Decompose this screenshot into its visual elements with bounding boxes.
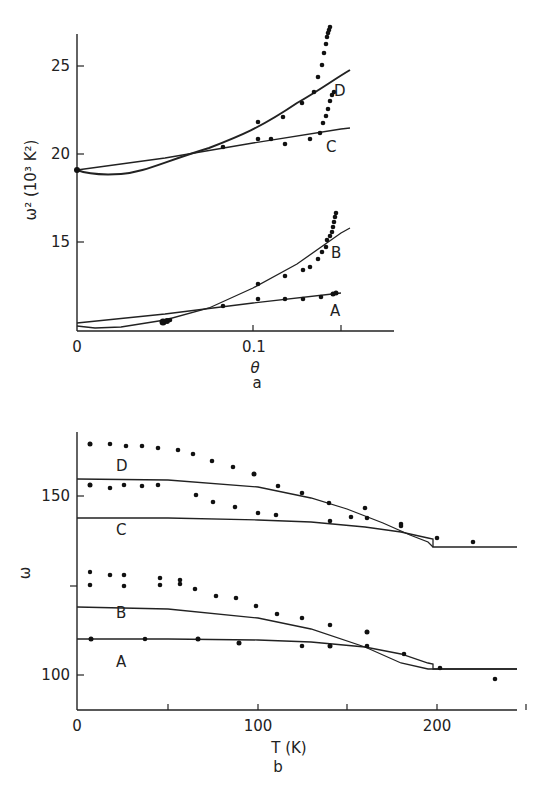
panel-b-ytick-label: 100 xyxy=(41,666,70,684)
curve-label-a: A xyxy=(116,653,127,671)
panel-b-ytick-label: 150 xyxy=(41,487,70,505)
curve-d-fit xyxy=(77,70,350,175)
curve-c-fit xyxy=(77,128,350,170)
curve-label-d: D xyxy=(116,457,128,475)
curve-label-b: B xyxy=(331,244,341,262)
panel-b-points xyxy=(88,442,498,682)
figure-canvas: 25 20 15 0 0.1 ω² (10³ K²) θ a xyxy=(0,0,546,789)
curve-d-fit xyxy=(77,479,433,547)
panel-b-x-axis-label: T (K) xyxy=(270,739,306,757)
curve-label-d: D xyxy=(334,82,346,100)
curve-label-c: C xyxy=(326,138,336,156)
panel-a-caption: a xyxy=(252,374,261,392)
panel-b-caption: b xyxy=(273,758,283,776)
curve-label-c: C xyxy=(116,521,126,539)
panel-a-y-axis-label: ω² (10³ K²) xyxy=(22,140,40,221)
panel-a-ytick-label: 20 xyxy=(51,145,70,163)
curve-a-fit xyxy=(77,639,517,669)
panel-a-xtick-label: 0 xyxy=(72,338,82,356)
panel-a-ytick-label: 15 xyxy=(51,233,70,251)
panel-b-xtick-label: 0 xyxy=(72,717,82,735)
panel-b-y-axis-label: ω xyxy=(16,567,34,580)
panel-a-ytick-label: 25 xyxy=(51,57,70,75)
curve-label-b: B xyxy=(116,604,126,622)
curve-label-a: A xyxy=(330,302,341,320)
panel-b-xtick-label: 100 xyxy=(244,717,273,735)
panel-b-xtick-label: 200 xyxy=(423,717,452,735)
panel-a: 25 20 15 0 0.1 ω² (10³ K²) θ a xyxy=(22,25,394,392)
curve-b-fit xyxy=(77,228,350,328)
panel-b-curves xyxy=(77,479,517,669)
panel-b: 150 100 0 100 200 ω T (K) b xyxy=(16,432,526,776)
curve-c-fit xyxy=(77,518,517,547)
panel-a-xtick-label: 0.1 xyxy=(242,338,266,356)
panel-a-curves xyxy=(77,70,350,328)
